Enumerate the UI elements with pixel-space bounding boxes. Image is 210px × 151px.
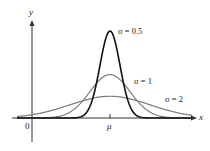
normal-distribution-chart <box>0 0 210 151</box>
x-axis-label: x <box>199 113 203 122</box>
origin-label: 0 <box>25 122 30 131</box>
y-axis-arrow-icon <box>30 20 35 26</box>
sigma-0-5-label: σ = 0.5 <box>118 27 142 36</box>
sigma-2-label: σ = 2 <box>165 95 183 104</box>
mu-label: μ <box>107 122 112 131</box>
y-axis-label: y <box>29 8 33 17</box>
sigma-1-label: σ = 1 <box>134 77 152 86</box>
curve-sigma-0-5 <box>17 31 192 118</box>
